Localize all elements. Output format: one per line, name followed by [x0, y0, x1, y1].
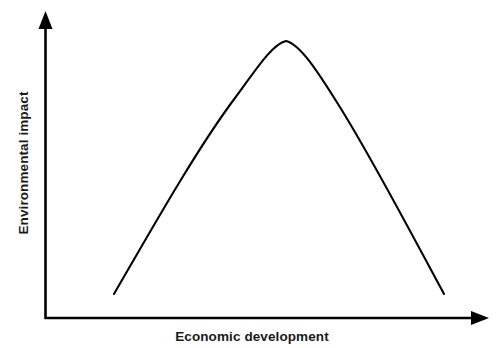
y-axis-label: Environmental impact — [16, 95, 31, 235]
y-axis-arrow-icon — [39, 11, 53, 29]
x-axis-label: Economic development — [0, 329, 496, 344]
kuznets-curve-path — [114, 41, 444, 294]
x-axis-arrow-icon — [471, 311, 489, 325]
data-series-group — [114, 41, 444, 294]
chart-canvas — [0, 0, 496, 348]
chart-figure: Economic development Environmental impac… — [0, 0, 496, 348]
